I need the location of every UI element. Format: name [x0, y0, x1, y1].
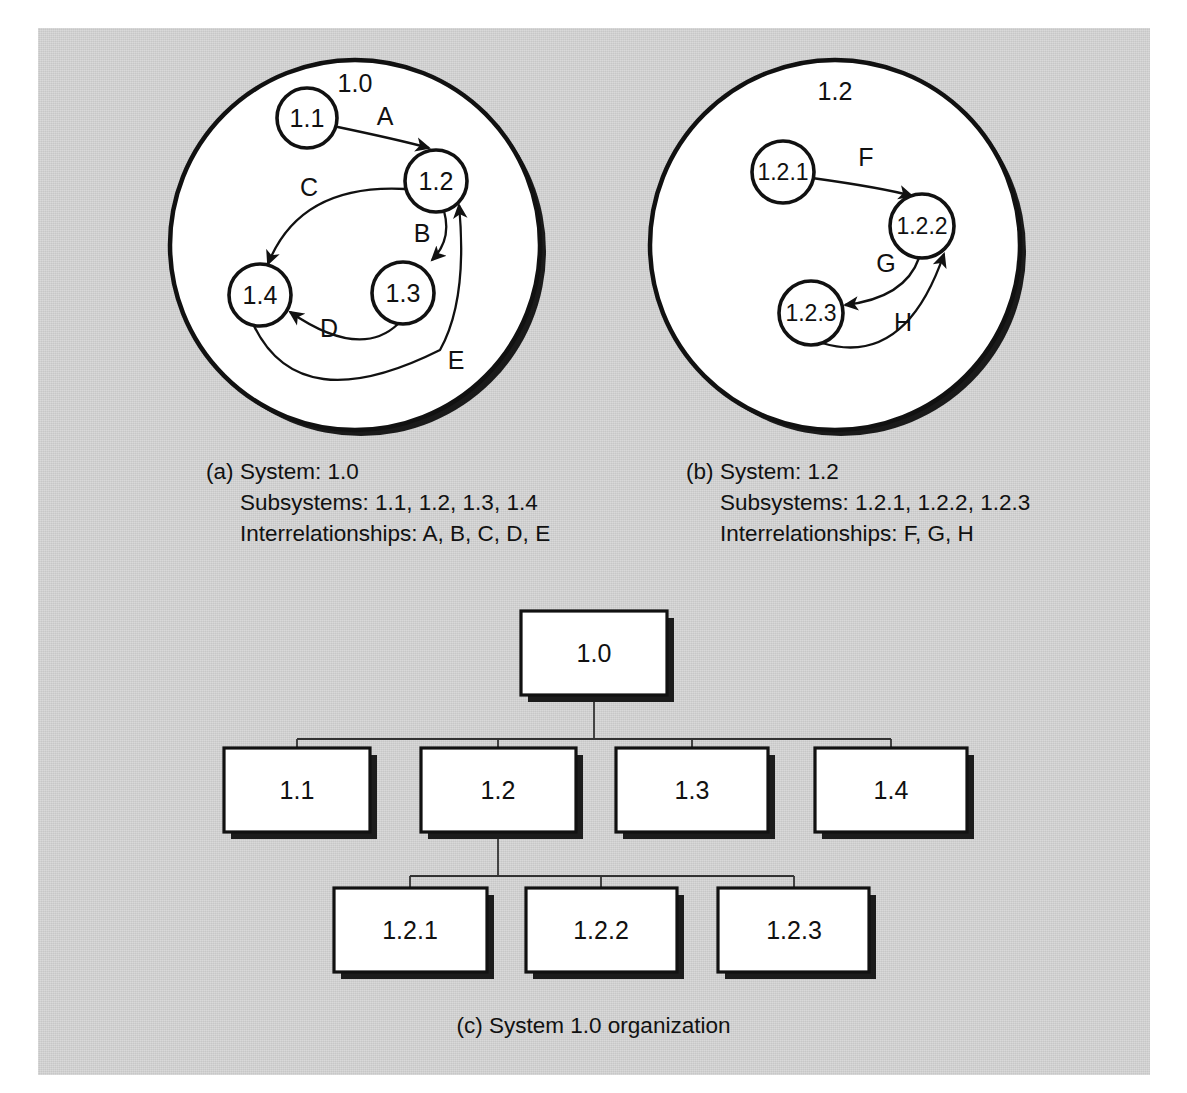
caption-a-line3: Interrelationships: A, B, C, D, E [206, 518, 550, 549]
caption-a-system: System: 1.0 [240, 459, 359, 484]
caption-c: (c) System 1.0 organization [0, 1013, 1187, 1039]
caption-b-line1: (b)System: 1.2 [686, 456, 1030, 487]
caption-b-interrelationships: Interrelationships: F, G, H [720, 521, 974, 546]
caption-b: (b)System: 1.2Subsystems: 1.2.1, 1.2.2, … [686, 456, 1030, 549]
caption-b-system: System: 1.2 [720, 459, 839, 484]
page-top-crop [0, 0, 1187, 26]
caption-b-line3: Interrelationships: F, G, H [686, 518, 1030, 549]
figure-panel [38, 28, 1150, 1075]
caption-a-subsystems: Subsystems: 1.1, 1.2, 1.3, 1.4 [240, 490, 538, 515]
caption-b-line2: Subsystems: 1.2.1, 1.2.2, 1.2.3 [686, 487, 1030, 518]
caption-b-subsystems: Subsystems: 1.2.1, 1.2.2, 1.2.3 [720, 490, 1030, 515]
caption-a-interrelationships: Interrelationships: A, B, C, D, E [240, 521, 550, 546]
caption-a-line1: (a)System: 1.0 [206, 456, 550, 487]
caption-b-tag: (b) [686, 456, 720, 487]
caption-a-line2: Subsystems: 1.1, 1.2, 1.3, 1.4 [206, 487, 550, 518]
caption-a: (a)System: 1.0Subsystems: 1.1, 1.2, 1.3,… [206, 456, 550, 549]
caption-a-tag: (a) [206, 456, 240, 487]
figure-root: 1.0 A B C D E 1.1 1.2 [0, 0, 1187, 1093]
